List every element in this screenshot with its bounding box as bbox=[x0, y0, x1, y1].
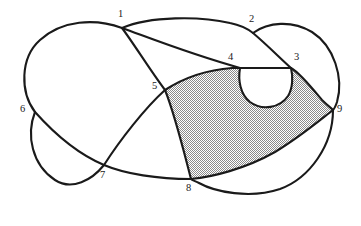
crossing-label-5: 5 bbox=[152, 81, 157, 92]
crossing-label-7: 7 bbox=[100, 170, 105, 181]
curve-strand-e bbox=[31, 112, 104, 184]
knot-diagram-figure: 1 2 3 4 5 6 7 8 9 bbox=[0, 0, 361, 226]
crossing-label-3: 3 bbox=[294, 52, 299, 63]
knot-diagram-svg bbox=[0, 0, 361, 226]
crossing-label-2: 2 bbox=[249, 14, 254, 25]
crossing-label-4: 4 bbox=[228, 52, 233, 63]
crossing-label-9: 9 bbox=[337, 104, 342, 115]
curve-strand-d bbox=[35, 112, 191, 179]
crossing-label-8: 8 bbox=[186, 183, 191, 194]
crossing-label-6: 6 bbox=[20, 104, 25, 115]
crossing-label-1: 1 bbox=[118, 9, 123, 20]
